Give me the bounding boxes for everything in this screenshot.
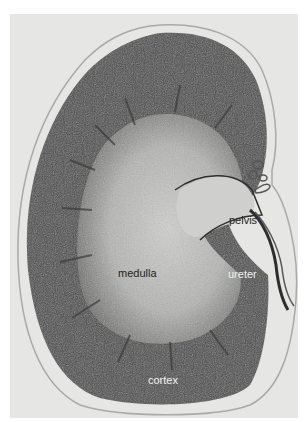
kidney-illustration [0, 0, 308, 422]
label-medulla: medulla [118, 268, 157, 279]
label-ureter: ureter [228, 269, 257, 280]
label-pelvis: pelvis [229, 215, 257, 226]
label-cortex: cortex [148, 375, 178, 386]
